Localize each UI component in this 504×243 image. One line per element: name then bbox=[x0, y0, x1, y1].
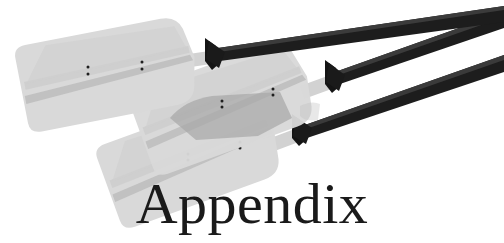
illustration-page: Appendix bbox=[0, 0, 504, 243]
page-title: Appendix bbox=[0, 175, 504, 233]
blade-overlap-secondary bbox=[300, 102, 320, 120]
